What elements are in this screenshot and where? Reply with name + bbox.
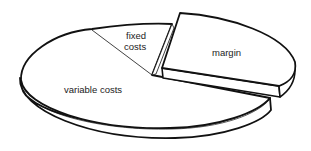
label-fixed-costs-line1: fixed (126, 30, 146, 41)
label-variable-costs: variable costs (64, 84, 122, 95)
label-fixed-costs-line2: costs (124, 41, 146, 52)
label-margin: margin (212, 47, 241, 58)
pie-chart: variable costs fixed costs margin (0, 0, 311, 151)
